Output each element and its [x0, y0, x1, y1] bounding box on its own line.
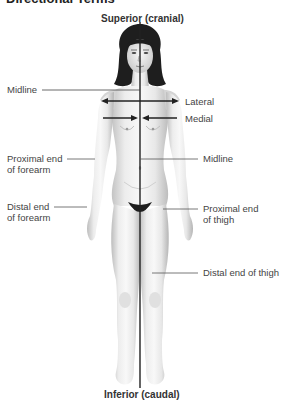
label-inferior: Inferior (caudal): [104, 389, 180, 400]
label-proximal-thigh-line1: Proximal end: [203, 203, 258, 214]
label-lateral: Lateral: [185, 96, 214, 107]
label-midline-left: Midline: [7, 84, 37, 95]
label-superior: Superior (cranial): [101, 13, 184, 24]
label-distal-forearm-line1: Distal end: [7, 201, 50, 212]
left-arm: [87, 92, 114, 240]
label-proximal-forearm-line2: of forearm: [7, 164, 62, 175]
label-proximal-thigh-line2: of thigh: [203, 214, 258, 225]
label-proximal-forearm: Proximal end of forearm: [7, 153, 62, 175]
label-proximal-thigh: Proximal end of thigh: [203, 203, 258, 225]
label-midline-right: Midline: [203, 153, 233, 164]
label-distal-forearm-line2: of forearm: [7, 212, 50, 223]
label-proximal-forearm-line1: Proximal end: [7, 153, 62, 164]
label-distal-thigh: Distal end of thigh: [203, 267, 279, 278]
label-medial: Medial: [185, 113, 213, 124]
label-distal-forearm: Distal end of forearm: [7, 201, 50, 223]
